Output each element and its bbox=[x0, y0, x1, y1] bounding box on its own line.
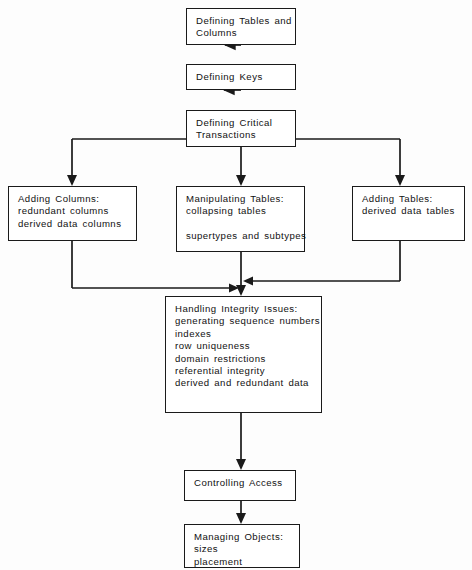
node-line: Transactions bbox=[196, 129, 286, 141]
node-line: derived data tables bbox=[362, 205, 455, 217]
node-line-spacer bbox=[186, 218, 295, 230]
node-manipulating-tables[interactable]: Manipulating Tables: collapsing tables s… bbox=[176, 186, 305, 252]
node-line: Defining Tables and bbox=[196, 15, 286, 27]
fanout-arrowheads bbox=[67, 175, 405, 186]
node-line: derived and redundant data bbox=[175, 377, 312, 389]
node-defining-critical-transactions[interactable]: Defining Critical Transactions bbox=[186, 110, 296, 147]
node-line: generating sequence numbers bbox=[175, 315, 312, 327]
node-line: Handling Integrity Issues: bbox=[175, 303, 312, 315]
node-line: Defining Critical bbox=[196, 117, 286, 129]
node-line: derived data columns bbox=[18, 218, 127, 230]
node-line: redundant columns bbox=[18, 205, 127, 217]
node-handling-integrity-issues[interactable]: Handling Integrity Issues: generating se… bbox=[165, 296, 322, 413]
node-adding-tables[interactable]: Adding Tables: derived data tables bbox=[352, 186, 465, 241]
node-line: collapsing tables bbox=[186, 205, 295, 217]
node-line: placement bbox=[194, 556, 290, 568]
node-line: Columns bbox=[196, 27, 286, 39]
node-line: Manipulating Tables: bbox=[186, 193, 295, 205]
node-line: sizes bbox=[194, 543, 290, 555]
node-line: referential integrity bbox=[175, 365, 312, 377]
node-line: Adding Tables: bbox=[362, 193, 455, 205]
node-line: supertypes and subtypes bbox=[186, 230, 295, 242]
node-line: indexes bbox=[175, 328, 312, 340]
node-line: Adding Columns: bbox=[18, 193, 127, 205]
node-defining-keys[interactable]: Defining Keys bbox=[186, 64, 296, 90]
node-line: domain restrictions bbox=[175, 353, 312, 365]
node-controlling-access[interactable]: Controlling Access bbox=[184, 470, 296, 501]
node-adding-columns[interactable]: Adding Columns: redundant columns derive… bbox=[8, 186, 137, 241]
flowchart-page: Defining Tables and Columns Defining Key… bbox=[0, 0, 472, 570]
node-defining-tables-and-columns[interactable]: Defining Tables and Columns bbox=[186, 8, 296, 45]
node-line: Defining Keys bbox=[196, 71, 286, 83]
node-line: Managing Objects: bbox=[194, 531, 290, 543]
node-line: row uniqueness bbox=[175, 340, 312, 352]
node-managing-objects[interactable]: Managing Objects: sizes placement bbox=[184, 524, 300, 568]
node-line: Controlling Access bbox=[194, 477, 286, 489]
